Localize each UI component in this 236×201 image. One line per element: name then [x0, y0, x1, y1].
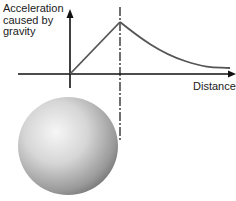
gravity-diagram: Acceleration caused by gravity Distance [0, 0, 236, 201]
y-axis-label-line: Acceleration [3, 3, 73, 15]
x-axis-label: Distance [193, 81, 236, 93]
x-axis-arrow-icon [228, 71, 236, 78]
planet-sphere [18, 97, 118, 195]
y-axis-label: Acceleration caused by gravity [3, 3, 73, 38]
outside-gravity-curve [120, 22, 230, 68]
inside-gravity-line [70, 22, 120, 74]
y-axis-label-line: gravity [3, 26, 73, 38]
